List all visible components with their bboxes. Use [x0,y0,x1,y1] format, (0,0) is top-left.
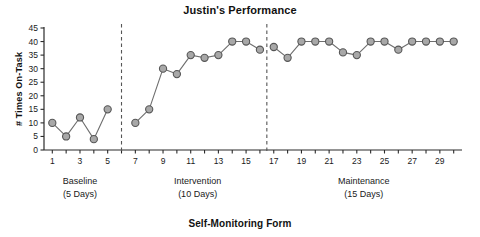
chart-figure: Justin's Performance # Times On-Task 051… [0,0,480,237]
data-point-marker [409,38,416,45]
data-point-marker [326,38,333,45]
data-point-marker [90,136,97,143]
y-axis-tick-label: 35 [29,50,39,60]
data-point-marker [201,54,208,61]
line-chart-plot: 0510152025303540451357911131517192123252… [0,0,480,237]
data-point-marker [339,49,346,56]
data-point-marker [353,52,360,59]
data-point-marker [159,65,166,72]
y-axis-tick-label: 15 [29,104,39,114]
y-axis-tick-label: 30 [29,64,39,74]
x-axis-tick-label: 29 [435,156,445,166]
phase-label-name: Intervention [174,176,221,186]
data-point-marker [242,38,249,45]
phase-label-duration: (10 Days) [178,189,217,199]
x-axis-tick-label: 27 [407,156,417,166]
data-point-marker [395,46,402,53]
data-point-marker [270,43,277,50]
data-point-marker [187,52,194,59]
x-axis-tick-label: 5 [105,156,110,166]
x-axis-tick-label: 1 [50,156,55,166]
data-point-marker [132,119,139,126]
y-axis-tick-label: 40 [29,37,39,47]
x-axis-tick-label: 21 [324,156,334,166]
x-axis-tick-label: 23 [352,156,362,166]
data-point-marker [146,106,153,113]
y-axis-tick-label: 45 [29,23,39,33]
x-axis-tick-label: 7 [133,156,138,166]
data-point-marker [76,114,83,121]
data-point-marker [436,38,443,45]
y-axis-tick-label: 20 [29,91,39,101]
x-axis-tick-label: 11 [186,156,195,166]
data-point-marker [367,38,374,45]
x-axis-tick-label: 9 [161,156,166,166]
y-axis-label-text: # Times On-Task [14,52,24,126]
data-point-marker [312,38,319,45]
data-point-marker [215,52,222,59]
data-point-marker [284,54,291,61]
y-axis-label: # Times On-Task [10,28,28,150]
y-axis-tick-label: 25 [29,77,39,87]
chart-title: Justin's Performance [0,4,480,16]
data-point-marker [298,38,305,45]
x-axis-tick-label: 17 [269,156,279,166]
x-axis-tick-label: 19 [297,156,307,166]
data-point-marker [229,38,236,45]
data-point-marker [256,46,263,53]
x-axis-tick-label: 15 [241,156,251,166]
data-point-marker [422,38,429,45]
phase-label-duration: (15 Days) [344,189,383,199]
data-line-segment [135,42,260,123]
y-axis-tick-label: 0 [33,145,38,155]
phase-label-duration: (5 Days) [63,189,97,199]
y-axis-tick-label: 10 [29,118,39,128]
data-point-marker [173,70,180,77]
phase-label-name: Baseline [63,176,98,186]
data-point-marker [49,119,56,126]
data-point-marker [381,38,388,45]
data-point-marker [450,38,457,45]
y-axis-tick-label: 5 [33,131,38,141]
chart-caption: Self-Monitoring Form [0,218,480,229]
phase-label-name: Maintenance [338,176,390,186]
x-axis-tick-label: 3 [78,156,83,166]
x-axis-tick-label: 13 [214,156,224,166]
data-point-marker [104,106,111,113]
x-axis-tick-label: 25 [380,156,390,166]
data-point-marker [63,133,70,140]
